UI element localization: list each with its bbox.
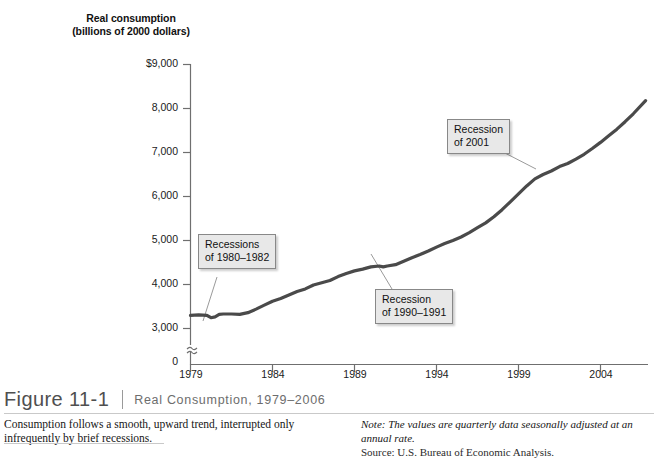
y-axis-title: Real consumption (billions of 2000 dolla… (66, 12, 196, 38)
annotation-recessions-1980-1982: Recessions of 1980–1982 (198, 234, 276, 269)
figure-number: Figure 11-1 (4, 388, 109, 411)
chart-area: Real consumption (billions of 2000 dolla… (0, 0, 658, 385)
x-tick-label-1999: 1999 (494, 369, 544, 380)
y-tick-label-5000: 5,000 (118, 234, 178, 245)
figure-title: Real Consumption, 1979–2006 (134, 393, 325, 407)
y-tick-label-9000: $9,000 (118, 58, 178, 69)
x-tick-label-1984: 1984 (248, 369, 298, 380)
figure-caption-block: Figure 11-1 Real Consumption, 1979–2006 … (0, 388, 658, 445)
axis-break-mark-2 (187, 347, 197, 349)
leader-line-1990-1991 (371, 254, 392, 289)
axis-break-mark (187, 351, 197, 353)
annotation-recession-2001: Recession of 2001 (447, 119, 510, 154)
caption-rule-bottom (4, 443, 164, 444)
annotation-line1: Recession (382, 293, 446, 306)
y-axis-title-line2: (billions of 2000 dollars) (66, 25, 196, 38)
y-axis-title-line1: Real consumption (66, 12, 196, 25)
annotation-line2: of 1980–1982 (205, 251, 269, 264)
caption-rule-top (4, 413, 654, 414)
annotation-line2: of 2001 (454, 136, 503, 149)
y-tick-label-3000: 3,000 (118, 322, 178, 333)
leader-line-2001 (503, 152, 536, 169)
figure-heading-divider (122, 390, 123, 409)
figure-source: Source: U.S. Bureau of Economic Analysis… (361, 445, 656, 459)
annotation-recession-1990-1991: Recession of 1990–1991 (375, 289, 453, 324)
x-tick-label-1989: 1989 (330, 369, 380, 380)
figure-note: Note: The values are quarterly data seas… (361, 417, 656, 445)
consumption-line (191, 101, 646, 318)
x-tick-label-1994: 1994 (412, 369, 462, 380)
y-tick-label-0: 0 (118, 356, 178, 367)
y-tick-marks (183, 65, 191, 329)
annotation-line1: Recession (454, 123, 503, 136)
y-tick-label-6000: 6,000 (118, 190, 178, 201)
annotation-line2: of 1990–1991 (382, 306, 446, 319)
annotation-line1: Recessions (205, 238, 269, 251)
x-tick-label-1979: 1979 (166, 369, 216, 380)
figure-note-block: Note: The values are quarterly data seas… (361, 417, 656, 459)
figure-caption-text: Consumption follows a smooth, upward tre… (4, 417, 324, 445)
y-tick-label-4000: 4,000 (118, 278, 178, 289)
consumption-line-chart (0, 0, 658, 385)
y-tick-label-7000: 7,000 (118, 146, 178, 157)
x-tick-label-2004: 2004 (576, 369, 626, 380)
y-tick-label-8000: 8,000 (118, 102, 178, 113)
figure-heading: Figure 11-1 Real Consumption, 1979–2006 (4, 388, 325, 411)
